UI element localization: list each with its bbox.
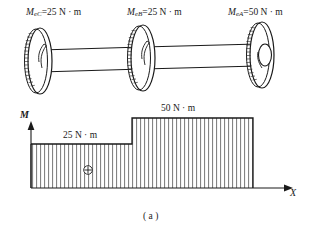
torque-region-low	[31, 144, 132, 188]
pulley-c-symbol: M	[26, 7, 34, 17]
pulley-c-torque-label: MeC=25 N · m	[26, 8, 81, 18]
pulley-c-value: =25 N · m	[42, 7, 81, 17]
pulley-b-value: =25 N · m	[142, 7, 181, 17]
axis-m-label: M	[20, 110, 29, 120]
torque-region-high	[132, 118, 253, 188]
pulley-a-torque-label: MeA=50 N · m	[228, 8, 283, 18]
pulley-a-symbol: M	[228, 7, 236, 17]
pulley-c-subscript: eC	[34, 10, 42, 18]
pulley-b-torque-label: MeB=25 N · m	[127, 8, 182, 18]
pulley-a-value: =50 N · m	[243, 7, 282, 17]
torque-value-high-label: 50 N · m	[161, 104, 195, 114]
pulley-a	[246, 22, 274, 88]
axis-m-arrowhead	[28, 121, 35, 130]
figure-caption: ( a )	[143, 212, 158, 222]
pulley-c	[24, 28, 52, 94]
torque-chart	[0, 108, 321, 218]
pulley-b	[127, 25, 155, 91]
shaft-segment-right	[143, 44, 258, 69]
torque-value-low-label: 25 N · m	[63, 131, 97, 141]
torque-figure: MeC=25 N · m MeB=25 N · m MeA=50 N · m	[0, 0, 321, 238]
axis-x-label: X	[290, 188, 296, 198]
positive-sign-marker	[84, 166, 93, 175]
pulley-b-symbol: M	[127, 7, 135, 17]
